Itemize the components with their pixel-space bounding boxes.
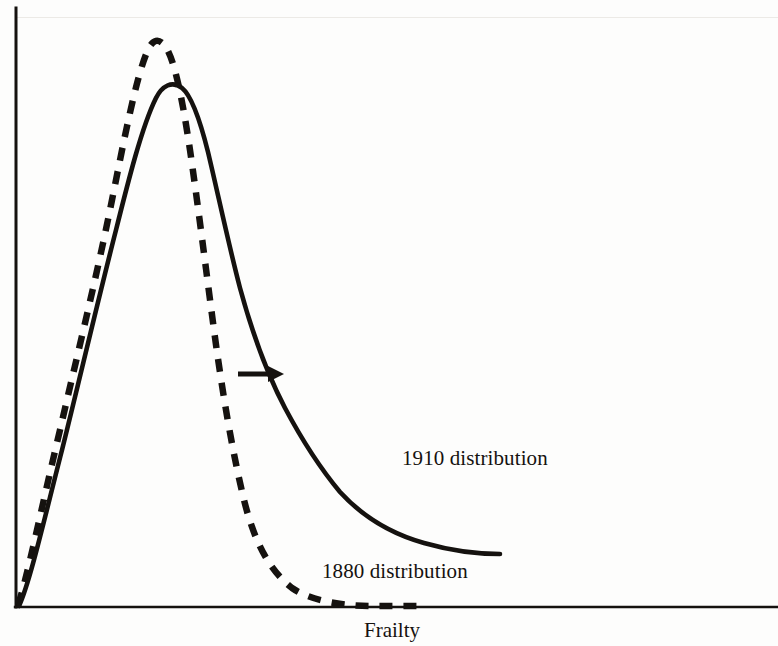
distribution-plot bbox=[0, 0, 778, 646]
curve-1910-distribution bbox=[19, 84, 500, 606]
figure-canvas: 1910 distribution 1880 distribution Frai… bbox=[0, 0, 778, 646]
x-axis-label: Frailty bbox=[0, 618, 778, 643]
curve-1880-distribution bbox=[18, 41, 424, 606]
series-label-1880: 1880 distribution bbox=[322, 559, 468, 584]
x-axis-label-text: Frailty bbox=[364, 618, 420, 643]
shift-arrow-icon bbox=[238, 366, 284, 382]
series-label-1910: 1910 distribution bbox=[402, 446, 548, 471]
